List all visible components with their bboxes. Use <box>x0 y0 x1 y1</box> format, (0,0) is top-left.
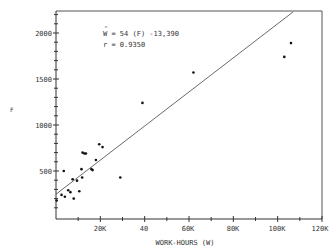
data-point <box>101 146 104 149</box>
data-point <box>69 191 72 194</box>
data-point <box>91 169 94 172</box>
regression-equation: W = 54 (F) -13,390 <box>103 30 179 38</box>
y-tick-label-1000: 1000 <box>35 122 52 130</box>
data-point <box>60 194 63 197</box>
data-point <box>85 152 88 155</box>
x-tick-label-60k: 60K <box>182 225 195 233</box>
data-point <box>283 56 286 59</box>
data-point <box>64 195 67 198</box>
data-point <box>119 176 122 179</box>
x-tick-label-80k: 80K <box>227 225 240 233</box>
scatter-chart: 500 1000 1500 2000 20K 40 60K 80K 100K 1… <box>0 0 336 251</box>
data-point <box>72 197 75 200</box>
correlation-value: r = 0.9350 <box>103 41 145 49</box>
data-points <box>55 42 292 202</box>
y-axis-title: F <box>10 106 14 113</box>
y-tick-label-500: 500 <box>39 168 52 176</box>
data-point <box>80 168 83 171</box>
data-point <box>67 189 70 192</box>
data-point <box>95 159 98 162</box>
regression-line <box>56 12 293 194</box>
data-point <box>55 199 58 202</box>
x-tick-label-120k: 120K <box>312 225 330 233</box>
data-point <box>81 176 84 179</box>
x-tick-label-40k: 40 <box>140 225 148 233</box>
data-point <box>141 102 144 105</box>
x-tick-label-20k: 20K <box>94 225 107 233</box>
y-tick-label-1500: 1500 <box>35 76 52 84</box>
data-point <box>98 143 101 146</box>
x-axis-title: WORK-HOURS (W) <box>155 239 214 247</box>
data-point <box>290 42 293 45</box>
x-tick-label-100k: 100K <box>269 225 287 233</box>
y-tick-label-2000: 2000 <box>35 30 52 38</box>
data-point <box>71 178 74 181</box>
data-point <box>78 190 81 193</box>
data-point <box>192 71 195 74</box>
data-point <box>62 170 65 173</box>
data-point <box>76 179 79 182</box>
plot-frame <box>56 11 322 219</box>
